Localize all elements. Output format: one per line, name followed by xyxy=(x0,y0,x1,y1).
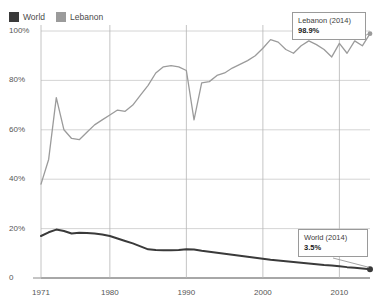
annotation-lebanon-value: 98.9% xyxy=(298,26,360,35)
leader-line xyxy=(333,258,369,267)
annotation-world-title: World (2014) xyxy=(304,233,362,242)
annotation-world[interactable]: World (2014) 3.5% xyxy=(298,229,368,257)
chart-container: World Lebanon 100%80%60%40%20%0 19711980… xyxy=(0,0,387,304)
annotation-lebanon[interactable]: Lebanon (2014) 98.9% xyxy=(292,12,366,40)
annotation-world-value: 3.5% xyxy=(304,243,362,252)
callout-leader-lines xyxy=(0,0,387,304)
annotation-lebanon-title: Lebanon (2014) xyxy=(298,16,360,25)
